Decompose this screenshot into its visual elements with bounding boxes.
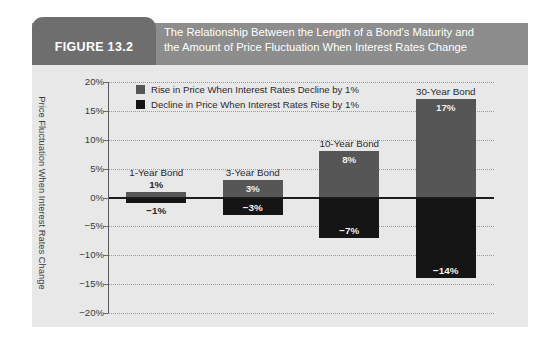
y-axis-title: Price Fluctuation When Interest Rates Ch… [37,0,51,93]
legend-label-decline: Decline in Price When Interest Rates Ris… [151,99,359,110]
bar-category-label: 30-Year Bond [398,86,494,97]
y-axis-title-text: Price Fluctuation When Interest Rates Ch… [37,93,48,293]
gridline [108,313,494,314]
bar-value-label-negative: −7% [319,225,379,236]
bar-category-label: 3-Year Bond [205,167,301,178]
bar-value-label-positive: 3% [223,183,283,194]
legend-swatch-rise [136,85,145,94]
bar-group[interactable]: 3%−3%3-Year Bond [223,82,283,313]
bar-value-label-negative: −14% [416,265,476,276]
bar-value-label-positive: 17% [416,102,476,113]
bar-group[interactable]: 1%−1%1-Year Bond [126,82,186,313]
y-axis-tick-label: −10% [54,249,104,260]
bar-value-label-negative: −1% [126,205,186,216]
legend-swatch-decline [136,100,145,109]
legend-item-decline: Decline in Price When Interest Rates Ris… [136,98,359,111]
figure-container: FIGURE 13.2 The Relationship Between the… [0,0,539,346]
figure-title-line-1: The Relationship Between the Length of a… [164,25,520,40]
y-axis-tick-label: −15% [54,278,104,289]
chart-legend: Rise in Price When Interest Rates Declin… [136,83,359,113]
bar-value-label-positive: 8% [319,154,379,165]
y-axis-tick-label: 0% [54,192,104,203]
bar-group[interactable]: 8%−7%10-Year Bond [319,82,379,313]
y-axis-tick-label: 15% [54,105,104,116]
bars-layer: 1%−1%1-Year Bond3%−3%3-Year Bond8%−7%10-… [108,82,494,313]
bar-value-label-negative: −3% [223,202,283,213]
legend-label-rise: Rise in Price When Interest Rates Declin… [151,84,359,95]
legend-item-rise: Rise in Price When Interest Rates Declin… [136,83,359,96]
y-axis-tick-label: 5% [54,163,104,174]
figure-title-line-2: the Amount of Price Fluctuation When Int… [164,40,520,55]
y-axis-tick-label: 20% [54,76,104,87]
figure-title: The Relationship Between the Length of a… [164,25,520,56]
y-axis-tick-label: 10% [54,134,104,145]
bar-negative[interactable] [126,198,186,204]
y-axis-tick-label: −20% [54,307,104,318]
bar-category-label: 10-Year Bond [301,138,397,149]
bar-group[interactable]: 17%−14%30-Year Bond [416,82,476,313]
bar-value-label-positive: 1% [126,179,186,190]
bar-category-label: 1-Year Bond [108,167,204,178]
y-axis-tick-label: −5% [54,220,104,231]
bar-positive[interactable] [416,99,476,197]
chart-panel: Price Fluctuation When Interest Rates Ch… [32,65,528,327]
